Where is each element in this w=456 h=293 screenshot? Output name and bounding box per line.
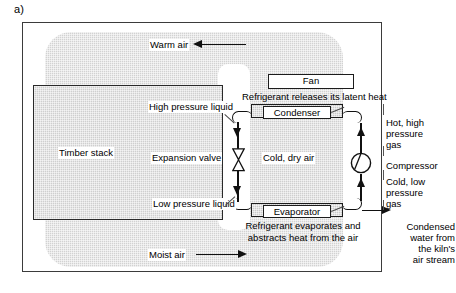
warm-air-label: Warm air — [149, 39, 189, 51]
guide-tick-mid-upper — [383, 146, 384, 156]
timber-stack-label: Timber stack — [58, 147, 114, 159]
high-pressure-liquid-label: High pressure liquid — [148, 101, 234, 113]
guide-tick-mid-lower — [383, 170, 384, 180]
guide-tick-upper — [383, 104, 384, 115]
compressor-label: Compressor — [385, 160, 439, 172]
expansion-valve-icon — [232, 148, 245, 172]
condensate-note-label: Condensed water from the kiln's air stre… — [376, 221, 456, 265]
flow-arrow-into-compressor — [357, 178, 365, 187]
condenser-note-label: Refrigerant releases its latent heat — [241, 91, 388, 103]
moist-air-arrow-icon — [238, 250, 247, 258]
flow-arrow-into-condenser — [357, 127, 365, 136]
expansion-valve-label: Expansion valve — [151, 152, 222, 164]
warm-air-flow-shaft — [200, 44, 246, 45]
compressor-icon — [350, 152, 372, 174]
hot-high-pressure-gas-label: Hot, high pressure gas — [385, 117, 455, 150]
condensate-flow-shaft — [362, 210, 384, 211]
flow-arrow-into-evaporator — [233, 186, 241, 195]
evaporator-note-label: Refrigerant evaporates and abstracts hea… — [232, 220, 374, 243]
warm-air-arrow-icon — [193, 40, 202, 48]
dehumidifier-kiln-diagram: a) Fan Condenser — [0, 0, 456, 293]
low-pressure-liquid-label: Low pressure liquid — [152, 198, 236, 210]
cold-low-pressure-gas-label: Cold, low pressure gas — [385, 176, 455, 209]
moist-air-label: Moist air — [148, 249, 186, 261]
figure-label: a) — [14, 3, 24, 15]
evaporator-label: Evaporator — [263, 205, 331, 218]
moist-air-flow-shaft — [196, 254, 240, 255]
fan-label: Fan — [268, 75, 354, 87]
pipe-elbow-evaporator-right — [342, 198, 362, 210]
guide-tick-lower — [383, 200, 384, 210]
condenser-label: Condenser — [263, 106, 331, 119]
cold-dry-air-label: Cold, dry air — [262, 152, 315, 164]
pipe-elbow-condenser-left — [232, 111, 252, 123]
flow-arrow-into-valve — [233, 128, 241, 137]
pipe-elbow-condenser-right — [342, 111, 362, 123]
